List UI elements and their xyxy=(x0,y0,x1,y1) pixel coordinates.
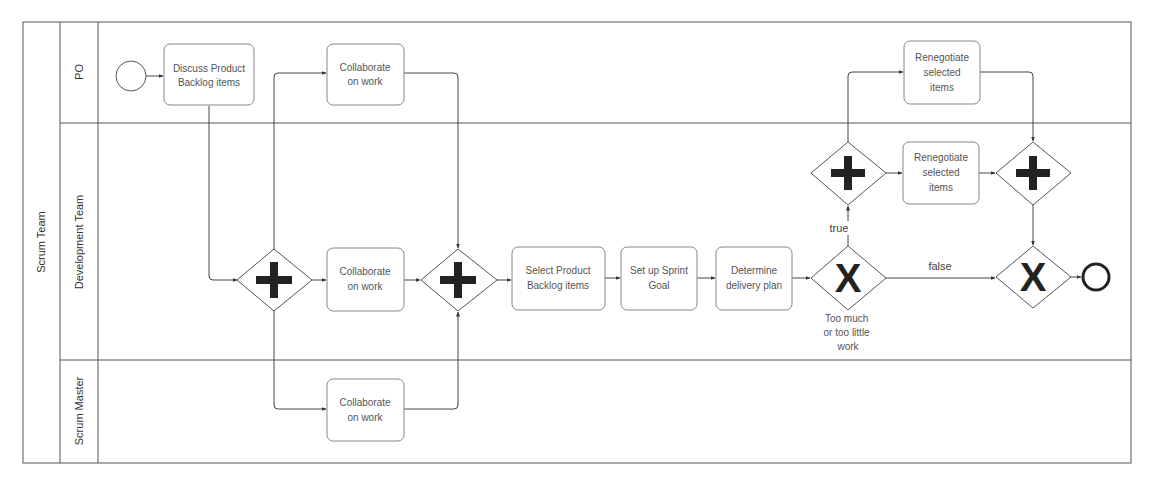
flow-collab-po-to-join1 xyxy=(404,73,458,248)
task-text-line: Collaborate xyxy=(339,397,391,408)
task-text-line: items xyxy=(929,182,953,193)
lane-label-po: PO xyxy=(73,64,85,80)
task-discuss-product-backlog-items[interactable]: Discuss ProductBacklog items xyxy=(164,44,254,105)
gateway-exclusive-decision[interactable]: X xyxy=(811,246,886,310)
task-text-line: Select Product xyxy=(525,265,590,276)
x-icon: X xyxy=(835,256,862,300)
task-text-line: on work xyxy=(347,281,383,292)
gateway-label-line: Too much xyxy=(825,313,868,324)
task-text-line: Renegotiate xyxy=(914,152,968,163)
task-text-line: Collaborate xyxy=(339,266,391,277)
task-text-line: Discuss Product xyxy=(173,63,245,74)
task-determine-delivery-plan[interactable]: Determinedelivery plan xyxy=(716,247,792,310)
gateway-parallel-join-1[interactable] xyxy=(421,249,497,311)
task-text-line: on work xyxy=(347,76,383,87)
task-text-line: items xyxy=(930,82,954,93)
task-text-line: selected xyxy=(922,167,959,178)
gateway-parallel-split-2[interactable] xyxy=(811,142,886,205)
flow-discuss-to-split1 xyxy=(209,106,237,280)
task-text-line: selected xyxy=(923,67,960,78)
task-set-up-sprint-goal[interactable]: Set up SprintGoal xyxy=(621,247,697,310)
task-renegotiate-po[interactable]: Renegotiateselecteditems xyxy=(904,41,980,104)
bpmn-diagram: Scrum Team PO Development Team Scrum Mas… xyxy=(0,0,1150,480)
pool-label: Scrum Team xyxy=(35,211,47,273)
edge-label-true: true xyxy=(830,222,849,234)
gateway-parallel-split-1[interactable] xyxy=(237,249,312,311)
task-text-line: Backlog items xyxy=(178,77,240,88)
task-text-line: Goal xyxy=(648,280,669,291)
end-event[interactable] xyxy=(1083,264,1109,290)
gateway-parallel-join-2[interactable] xyxy=(996,142,1071,205)
task-text-line: Set up Sprint xyxy=(630,265,688,276)
flow-split1-to-collab-po xyxy=(274,73,326,249)
task-text-line: Collaborate xyxy=(339,62,391,73)
gateway-decision-label: Too much or too little work xyxy=(824,313,873,352)
task-collaborate-dev[interactable]: Collaborateon work xyxy=(327,248,404,311)
task-select-product-backlog-items[interactable]: Select ProductBacklog items xyxy=(512,247,605,310)
task-text-line: delivery plan xyxy=(726,280,782,291)
task-text-line: Renegotiate xyxy=(915,52,969,63)
task-collaborate-po[interactable]: Collaborateon work xyxy=(327,44,404,105)
task-collaborate-sm[interactable]: Collaborateon work xyxy=(327,379,404,441)
gateway-label-line: work xyxy=(836,341,859,352)
task-renegotiate-dev[interactable]: Renegotiateselecteditems xyxy=(903,142,979,204)
gateway-exclusive-merge[interactable]: X xyxy=(996,246,1071,308)
flow-split2-to-reneg-po xyxy=(848,72,903,142)
task-text-line: Backlog items xyxy=(527,280,589,291)
task-text-line: Determine xyxy=(731,265,778,276)
x-icon: X xyxy=(1020,255,1047,299)
gateway-label-line: or too little xyxy=(824,327,871,338)
task-text-line: on work xyxy=(347,412,383,423)
start-event[interactable] xyxy=(116,61,146,91)
lane-label-scrum-master: Scrum Master xyxy=(73,376,85,445)
flow-reneg-po-to-join2 xyxy=(980,72,1033,141)
edge-label-false: false xyxy=(928,260,951,272)
lane-label-development-team: Development Team xyxy=(73,195,85,290)
